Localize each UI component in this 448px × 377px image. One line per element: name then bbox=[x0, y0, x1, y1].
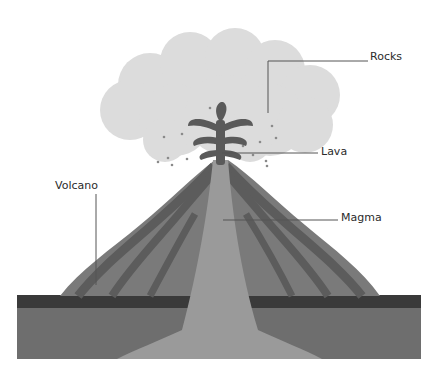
magma-label: Magma bbox=[341, 211, 382, 224]
lava-label: Lava bbox=[321, 145, 347, 158]
rocks-label: Rocks bbox=[370, 50, 402, 63]
volcano-label: Volcano bbox=[55, 179, 98, 192]
